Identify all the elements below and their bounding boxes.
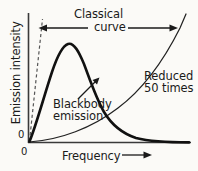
x-axis-label: Frequency	[62, 150, 121, 162]
classical-curve-label-line1: Classical	[74, 8, 123, 20]
blackbody-emission-label: Blackbody emission	[53, 98, 112, 123]
blackbody-radiation-chart: Emission intensity Frequency 0 0 Classic…	[0, 0, 198, 171]
frequency-axis-arrow	[122, 152, 152, 159]
classical-curve-label-line2: curve	[92, 21, 128, 33]
reduced-50-times-label: Reduced 50 times	[144, 70, 193, 95]
y-axis-label: Emission intensity	[10, 24, 22, 124]
y-axis-zero-tick-label: 0	[18, 130, 24, 141]
origin-zero-label: 0	[21, 147, 27, 158]
blackbody-label-line2: emission	[53, 110, 112, 122]
arrowhead-right-icon	[170, 25, 179, 32]
arrowhead-right-axis-icon	[144, 152, 153, 159]
reduced-label-line2: 50 times	[144, 82, 193, 94]
arrowhead-left-icon	[39, 25, 48, 32]
